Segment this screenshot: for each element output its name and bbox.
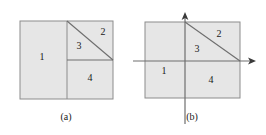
panel-a-caption: (a) bbox=[60, 111, 71, 123]
panel-b-caption: (b) bbox=[186, 111, 198, 123]
panel-b: 1 2 3 4 (b) bbox=[133, 12, 256, 124]
panel-a-region-label-4: 4 bbox=[88, 72, 93, 83]
geometry-figure: 1 2 3 4 (a) 1 2 3 4 (b) bbox=[0, 0, 266, 135]
panel-a: 1 2 3 4 (a) bbox=[20, 21, 113, 123]
panel-a-region-label-2: 2 bbox=[101, 26, 106, 37]
panel-b-region-label-2: 2 bbox=[217, 28, 222, 39]
panel-a-region-label-1: 1 bbox=[40, 51, 45, 62]
panel-a-region-label-3: 3 bbox=[77, 40, 82, 51]
panel-b-region-label-4: 4 bbox=[209, 74, 214, 85]
panel-b-region-label-3: 3 bbox=[195, 43, 200, 54]
figure-container: 1 2 3 4 (a) 1 2 3 4 (b) bbox=[0, 0, 266, 135]
panel-b-region-label-1: 1 bbox=[162, 65, 167, 76]
panel-b-rectangle-fill bbox=[145, 22, 240, 98]
